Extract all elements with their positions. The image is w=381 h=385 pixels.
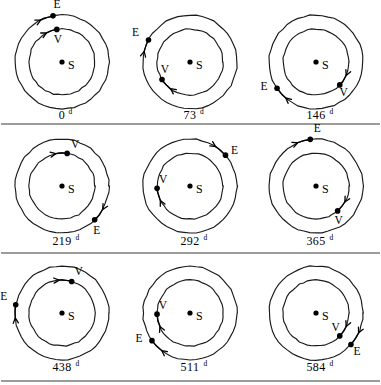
panel-caption: 584 xyxy=(306,360,325,374)
earth-direction-arc xyxy=(216,147,226,156)
sun-dot xyxy=(59,310,64,315)
sun-dot xyxy=(313,59,318,64)
earth-label: E xyxy=(261,80,268,92)
venus-label: V xyxy=(334,214,343,226)
panel-438d: SEV438d xyxy=(0,265,109,374)
earth-direction-arc xyxy=(277,88,286,98)
panel-365d: SEV365d xyxy=(269,122,363,248)
venus-direction-arc xyxy=(340,75,346,85)
panel-584d: SEV584d xyxy=(269,266,363,374)
venus-label: V xyxy=(340,86,349,98)
sun-dot xyxy=(59,183,64,188)
panel-caption: 511 xyxy=(181,360,200,374)
panel-caption-unit: d xyxy=(69,107,73,116)
sun-label: S xyxy=(68,182,75,196)
earth-label: E xyxy=(353,345,360,357)
orbital-diagram-figure: SEV0dSEV73dSEV146dSEV219dSEV292dSEV365dS… xyxy=(0,0,381,385)
panel-caption-unit: d xyxy=(203,359,207,368)
sun-dot xyxy=(59,59,64,64)
panel-caption-unit: d xyxy=(203,233,207,242)
venus-label: V xyxy=(71,138,80,150)
venus-direction-arc xyxy=(56,153,67,154)
sun-label: S xyxy=(68,309,75,323)
panel-0d: SEV0d xyxy=(15,0,109,122)
panel-caption: 0 xyxy=(59,108,65,122)
venus-direction-arc xyxy=(340,326,346,336)
panel-caption-unit: d xyxy=(75,359,79,368)
panel-caption-unit: d xyxy=(200,107,204,116)
panel-caption-unit: d xyxy=(329,107,333,116)
diagram-canvas: SEV0dSEV73dSEV146dSEV219dSEV292dSEV365dS… xyxy=(0,0,381,385)
earth-direction-arc xyxy=(41,16,53,20)
earth-direction-arc xyxy=(95,210,103,220)
earth-direction-arc xyxy=(152,341,162,351)
sun-label: S xyxy=(196,309,203,323)
earth-label: E xyxy=(314,122,321,134)
panels-group: SEV0dSEV73dSEV146dSEV219dSEV292dSEV365dS… xyxy=(0,0,363,374)
panel-caption-unit: d xyxy=(329,359,333,368)
sun-label: S xyxy=(68,58,75,72)
panel-219d: SEV219d xyxy=(15,138,110,248)
venus-arrowhead xyxy=(346,321,351,327)
panel-caption: 146 xyxy=(306,108,325,122)
venus-label: V xyxy=(74,265,83,277)
earth-label: E xyxy=(135,332,142,344)
sun-dot xyxy=(187,310,192,315)
earth-direction-arc xyxy=(15,305,16,318)
sun-label: S xyxy=(322,309,329,323)
venus-label: V xyxy=(54,33,63,45)
panel-292d: SEV292d xyxy=(143,139,238,248)
venus-direction-arc xyxy=(162,79,171,88)
sun-label: S xyxy=(322,182,329,196)
sun-dot xyxy=(313,310,318,315)
divider-lines-group xyxy=(1,124,380,381)
panel-146d: SEV146d xyxy=(261,15,363,122)
panel-caption-unit: d xyxy=(329,233,333,242)
sun-dot xyxy=(187,183,192,188)
sun-dot xyxy=(187,59,192,64)
earth-direction-arc xyxy=(351,333,359,345)
earth-label: E xyxy=(231,144,238,156)
venus-label: V xyxy=(159,299,168,311)
earth-label: E xyxy=(0,290,7,302)
panel-511d: SEV511d xyxy=(135,266,237,374)
panel-caption: 219 xyxy=(52,234,71,248)
panel-caption: 438 xyxy=(52,360,71,374)
earth-label: E xyxy=(93,224,100,236)
venus-label: V xyxy=(159,173,168,185)
venus-label: V xyxy=(332,321,341,333)
panel-caption-unit: d xyxy=(75,233,79,242)
sun-label: S xyxy=(322,58,329,72)
panel-73d: SEV73d xyxy=(132,15,237,122)
panel-caption: 292 xyxy=(180,234,199,248)
earth-label: E xyxy=(132,26,139,38)
earth-label: E xyxy=(54,0,61,10)
sun-dot xyxy=(313,183,318,188)
venus-label: V xyxy=(161,63,170,75)
venus-direction-arc xyxy=(338,202,345,211)
sun-label: S xyxy=(196,58,203,72)
panel-caption: 73 xyxy=(184,108,197,122)
sun-label: S xyxy=(196,182,203,196)
panel-caption: 365 xyxy=(306,234,325,248)
